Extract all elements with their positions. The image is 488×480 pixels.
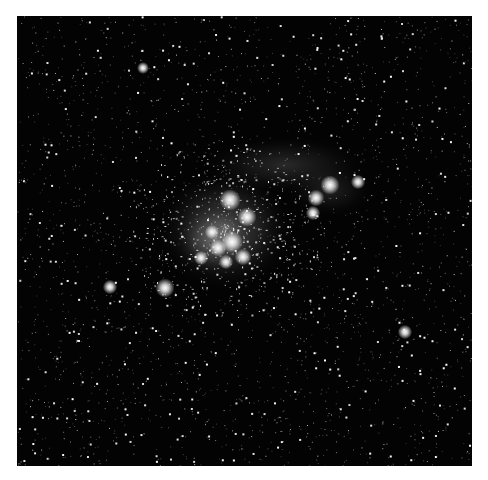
starfield-canvas <box>17 16 472 466</box>
astronomical-image <box>17 16 472 466</box>
